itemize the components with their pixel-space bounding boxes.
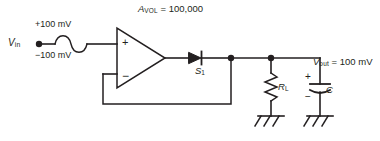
capacitor-negative-sign: − [305, 92, 311, 102]
opamp-noninverting-sign: + [122, 37, 128, 48]
ground-hatch-3-resistor [273, 116, 279, 126]
ground-hatch-1-capacitor [304, 116, 310, 126]
ground-hatch-1-resistor [255, 116, 261, 126]
ground-hatch-2-capacitor [313, 116, 319, 126]
vout-subscript: out [319, 60, 329, 67]
circuit-diagram: AVOL = 100,000 Vin +100 mV −100 mV + − S… [0, 0, 380, 141]
amplitude-positive-label: +100 mV [35, 20, 71, 29]
ground-hatch-3-capacitor [322, 116, 328, 126]
vout-equals: = [329, 56, 340, 67]
gain-subscript: VOL [144, 7, 158, 14]
diode-subscript: 1 [201, 69, 205, 76]
vout-annotation: Vout = 100 mV [313, 57, 373, 68]
gain-equals: = [158, 3, 169, 14]
vin-label: Vin [8, 38, 20, 49]
resistor-symbol: R [278, 81, 285, 92]
diode-body [189, 53, 201, 64]
capacitor-label: C [326, 85, 333, 95]
resistor-zigzag [265, 73, 277, 101]
diode-label: S1 [195, 66, 205, 77]
amplitude-negative-label: −100 mV [35, 51, 71, 60]
vout-value: 100 mV [340, 56, 373, 67]
resistor-label: RL [278, 82, 289, 93]
resistor-subscript: L [285, 85, 289, 92]
opamp-inverting-sign: − [122, 70, 129, 82]
vin-subscript: in [15, 41, 21, 48]
gain-annotation: AVOL = 100,000 [138, 4, 203, 15]
vin-symbol: V [8, 37, 15, 48]
capacitor-positive-sign: + [305, 72, 311, 82]
gain-value: 100,000 [169, 3, 203, 14]
ground-hatch-2-resistor [264, 116, 270, 126]
